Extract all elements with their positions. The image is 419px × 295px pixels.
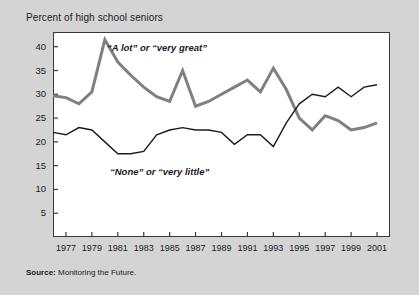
series-label-none: “None” or “very little” (110, 166, 209, 177)
y-tick-label: 35 (22, 65, 46, 76)
chart-figure: Percent of high school seniors 510152025… (0, 0, 419, 295)
x-axis-ticks (66, 232, 377, 237)
series-line-none (53, 85, 377, 154)
y-tick-label: 25 (22, 112, 46, 123)
x-tick-label: 2001 (360, 243, 394, 253)
y-tick-label: 40 (22, 41, 46, 52)
y-tick-label: 20 (22, 136, 46, 147)
y-tick-label: 30 (22, 88, 46, 99)
y-tick-label: 5 (22, 207, 46, 218)
series-label-a-lot: “A lot” or “very great” (107, 42, 207, 53)
series-line-a-lot (53, 40, 377, 130)
source-note: Source: Monitoring the Future. (26, 268, 136, 277)
y-tick-label: 10 (22, 183, 46, 194)
source-label: Source: (26, 268, 56, 277)
y-axis-ticks (53, 47, 58, 213)
y-tick-label: 15 (22, 160, 46, 171)
series-lines (53, 40, 377, 154)
source-text: Monitoring the Future. (58, 268, 136, 277)
